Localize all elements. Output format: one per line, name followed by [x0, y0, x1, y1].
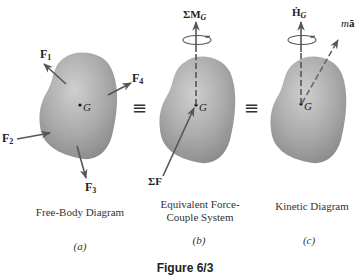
equivalence-symbol-2: ≡	[244, 97, 259, 118]
force-label-f4: F4	[132, 71, 143, 86]
rigid-body-b	[159, 57, 235, 164]
figure-caption: Figure 6/3	[140, 261, 230, 275]
equivalence-symbol-1: ≡	[132, 97, 147, 118]
panel-title-b: Equivalent Force- Couple System	[140, 198, 260, 224]
mass-center-label-b: G	[199, 101, 207, 113]
part-label-c: (c)	[289, 234, 329, 246]
mass-center-label-c: G	[304, 100, 312, 112]
panel-title-c: Kinetic Diagram	[262, 200, 361, 213]
force-label-f3: F3	[85, 180, 96, 195]
part-label-a: (a)	[60, 240, 100, 252]
mass-center-label-a: G	[83, 101, 91, 113]
panel-title-b-line2: Couple System	[140, 211, 260, 224]
panel-title-b-line1: Equivalent Force-	[140, 198, 260, 211]
rigid-body-a	[39, 53, 117, 160]
resultant-force-label: ΣF	[148, 175, 162, 187]
angular-momentum-label: ḢG	[292, 6, 306, 20]
part-label-b: (b)	[179, 234, 219, 246]
force-label-f1: F1	[40, 47, 51, 62]
panel-title-a: Free-Body Diagram	[20, 206, 140, 219]
moment-label: ΣMG	[183, 8, 206, 22]
force-label-f2: F2	[2, 131, 13, 146]
inertia-label: mā	[341, 17, 354, 29]
